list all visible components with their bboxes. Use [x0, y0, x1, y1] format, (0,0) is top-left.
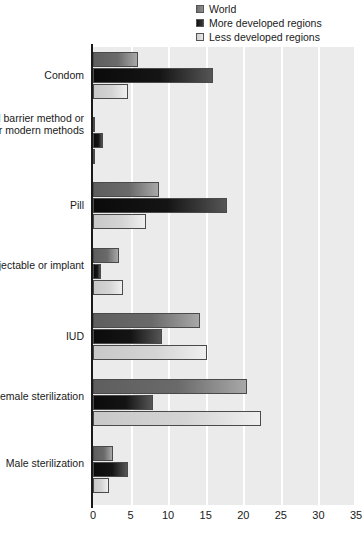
legend-label-more-developed: More developed regions — [209, 17, 322, 29]
bar-female-sterilization-less-developed — [93, 411, 261, 426]
category-label-vaginal-barrier: Vaginal barrier method or other modern m… — [0, 113, 84, 136]
bar-female-sterilization-more-developed — [93, 395, 153, 410]
category-label-condom: Condom — [0, 70, 84, 82]
category-label-iud: IUD — [0, 331, 84, 343]
legend-label-less-developed: Less developed regions — [209, 31, 320, 43]
gridline-20 — [243, 47, 245, 505]
bar-iud-less-developed — [93, 345, 207, 360]
gridline-10 — [168, 47, 170, 505]
x-tick-5: 5 — [128, 509, 134, 521]
bar-injectable-more-developed — [93, 264, 101, 279]
bar-pill-world — [93, 182, 159, 197]
gridline-15 — [206, 47, 208, 505]
x-axis-tick-labels: 0 5 10 15 20 25 30 35 — [93, 509, 356, 529]
chart-legend: World More developed regions Less develo… — [196, 2, 364, 44]
bar-iud-world — [93, 313, 200, 328]
x-tick-0: 0 — [90, 509, 96, 521]
bar-vaginal-barrier-more-developed — [93, 133, 103, 148]
x-tick-15: 15 — [200, 509, 212, 521]
bar-male-sterilization-less-developed — [93, 478, 109, 493]
bar-pill-more-developed — [93, 198, 227, 213]
bar-chart: World More developed regions Less develo… — [0, 0, 364, 542]
gridline-5 — [131, 47, 133, 505]
bar-female-sterilization-world — [93, 379, 247, 394]
bar-pill-less-developed — [93, 214, 146, 229]
legend-swatch-world-icon — [196, 5, 204, 13]
legend-swatch-less-developed-icon — [196, 33, 204, 41]
bar-iud-more-developed — [93, 329, 162, 344]
plot-area — [93, 47, 356, 505]
bar-condom-world — [93, 52, 138, 67]
bar-condom-more-developed — [93, 68, 213, 83]
gridline-25 — [281, 47, 283, 505]
category-label-female-sterilization: Female sterilization — [0, 391, 84, 403]
bar-male-sterilization-world — [93, 446, 113, 461]
x-tick-10: 10 — [162, 509, 174, 521]
category-label-male-sterilization: Male sterilization — [0, 458, 84, 470]
bar-male-sterilization-more-developed — [93, 462, 128, 477]
bar-injectable-world — [93, 248, 119, 263]
x-tick-30: 30 — [312, 509, 324, 521]
gridline-35 — [354, 47, 356, 505]
x-tick-20: 20 — [237, 509, 249, 521]
bar-vaginal-barrier-world — [93, 117, 95, 132]
legend-item-world: World — [196, 2, 364, 16]
gridline-30 — [318, 47, 320, 505]
bar-injectable-less-developed — [93, 280, 123, 295]
x-tick-35: 35 — [350, 509, 362, 521]
category-label-injectable: Injectable or implant — [0, 260, 84, 272]
x-tick-25: 25 — [275, 509, 287, 521]
legend-label-world: World — [209, 3, 236, 15]
legend-item-more-developed: More developed regions — [196, 16, 364, 30]
bar-condom-less-developed — [93, 84, 128, 99]
category-label-pill: Pill — [0, 200, 84, 212]
legend-item-less-developed: Less developed regions — [196, 30, 364, 44]
bar-vaginal-barrier-less-developed — [93, 149, 95, 164]
legend-swatch-more-developed-icon — [196, 19, 204, 27]
